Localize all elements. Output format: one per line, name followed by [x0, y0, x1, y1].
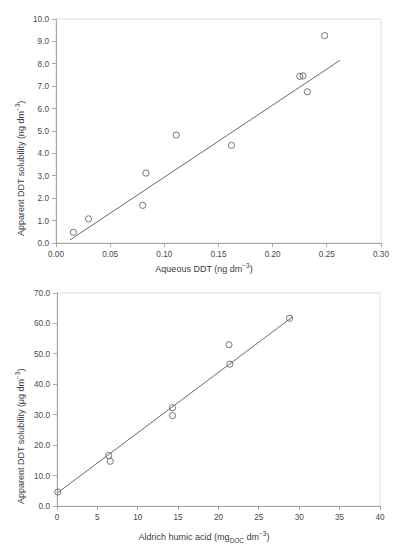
y-axis-title-bottom-text: Apparent DDT solubility (μg dm [16, 379, 26, 504]
y-tick-label: 7.0 [38, 82, 50, 91]
data-point [304, 89, 310, 95]
y-tick-label: 8.0 [38, 60, 50, 69]
trend-line [70, 60, 340, 239]
y-tick-label: 60.0 [34, 319, 50, 328]
y-axis-title-top-sup: −3 [14, 104, 21, 111]
data-point [286, 315, 292, 321]
chart-panel-top: 0.01.02.03.04.05.06.07.08.09.010.00.000.… [0, 0, 408, 282]
x-tick-label: 5 [95, 513, 100, 522]
x-tick-label: 0.20 [265, 250, 281, 259]
x-tick-label: 35 [335, 513, 345, 522]
x-axis-title-top-sup: −3 [242, 262, 249, 269]
data-point [226, 342, 232, 348]
x-tick-label: 0.10 [156, 250, 172, 259]
y-tick-label: 4.0 [38, 149, 50, 158]
y-tick-label: 70.0 [34, 289, 50, 298]
data-point [173, 132, 179, 138]
data-point [169, 405, 175, 411]
x-tick-label: 0.00 [48, 250, 64, 259]
y-tick-label: 40.0 [34, 380, 50, 389]
y-axis-title-bottom-sup: −3 [14, 372, 21, 379]
plot-frame [56, 19, 381, 243]
chart-panel-bottom: 0.010.020.030.040.050.060.070.0051015202… [0, 282, 408, 555]
x-axis-title-bottom-tail: ) [266, 532, 269, 542]
y-tick-label: 30.0 [34, 411, 50, 420]
y-axis-title-top-text: Apparent DDT solubility (ng dm [16, 111, 26, 236]
y-tick-label: 5.0 [38, 127, 50, 136]
plot-frame [57, 293, 380, 506]
data-point [106, 452, 112, 458]
y-tick-label: 0.0 [39, 502, 51, 511]
data-point [85, 216, 91, 222]
x-tick-label: 0.15 [211, 250, 227, 259]
y-axis-title-bottom: Apparent DDT solubility (μg dm−3) [16, 369, 26, 504]
x-axis-title-bottom-sub: DOC [230, 537, 244, 544]
x-tick-label: 15 [174, 513, 184, 522]
data-point [140, 202, 146, 208]
x-axis-title-top-text: Aqueous DDT (ng dm [155, 264, 242, 274]
x-tick-label: 20 [214, 513, 224, 522]
x-tick-label: 40 [375, 513, 385, 522]
x-axis-title-bottom-pre: Aldrich humic acid (mg [139, 532, 230, 542]
x-tick-label: 0.25 [319, 250, 335, 259]
y-axis-title-top-tail: ) [16, 101, 26, 104]
x-tick-label: 10 [133, 513, 143, 522]
y-tick-label: 50.0 [34, 350, 50, 359]
x-tick-label: 0.05 [102, 250, 118, 259]
scatter-plot-aldrich-humic-acid: 0.010.020.030.040.050.060.070.0051015202… [0, 282, 408, 527]
data-point [143, 170, 149, 176]
y-tick-label: 2.0 [38, 194, 50, 203]
y-tick-label: 3.0 [38, 172, 50, 181]
y-tick-label: 0.0 [38, 239, 50, 248]
y-axis-title-top: Apparent DDT solubility (ng dm−3) [16, 101, 26, 236]
y-tick-label: 1.0 [38, 217, 50, 226]
x-tick-label: 0.30 [373, 250, 389, 259]
x-axis-title-bottom-mid: dm [244, 532, 259, 542]
x-tick-label: 0 [55, 513, 60, 522]
x-tick-label: 30 [295, 513, 305, 522]
data-point [107, 458, 113, 464]
data-point [228, 142, 234, 148]
y-tick-label: 10.0 [34, 472, 50, 481]
y-tick-label: 6.0 [38, 105, 50, 114]
x-axis-title-top-tail: ) [250, 264, 253, 274]
data-point [169, 413, 175, 419]
y-tick-label: 10.0 [33, 15, 49, 24]
data-point [55, 489, 61, 495]
y-tick-label: 9.0 [38, 37, 50, 46]
trend-line [57, 317, 293, 493]
scatter-plot-aqueous-ddt: 0.01.02.03.04.05.06.07.08.09.010.00.000.… [0, 0, 408, 260]
data-point [70, 229, 76, 235]
y-tick-label: 20.0 [34, 441, 50, 450]
data-point [322, 32, 328, 38]
x-axis-title-top: Aqueous DDT (ng dm−3) [0, 264, 408, 274]
x-axis-title-bottom: Aldrich humic acid (mgDOC dm−3) [0, 532, 408, 542]
x-tick-label: 25 [254, 513, 264, 522]
figure-page: 0.01.02.03.04.05.06.07.08.09.010.00.000.… [0, 0, 408, 555]
y-axis-title-bottom-tail: ) [16, 369, 26, 372]
